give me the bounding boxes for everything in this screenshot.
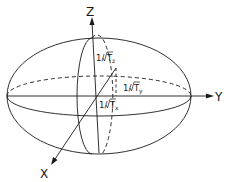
x-axis-label: X: [40, 167, 48, 181]
z-axis: [92, 22, 99, 153]
ellipsoid-diagram: Z Y X 1/ T z 1/ T y 1/ T x: [0, 0, 227, 182]
z-subscript: z: [112, 57, 115, 64]
z-axis-label: Z: [86, 5, 94, 19]
x-semi-axis-label: 1/ T x: [99, 99, 119, 111]
x-subscript: x: [115, 104, 119, 111]
y-subscript: y: [139, 87, 143, 95]
z-semi-axis-label: 1/ T z: [96, 52, 115, 64]
x-axis: [53, 68, 116, 162]
y-arrow-icon: [206, 94, 214, 99]
y-axis-label: Y: [214, 90, 223, 104]
y-semi-axis-label: 1/ T y: [123, 82, 143, 95]
x-arrow-icon: [51, 157, 58, 165]
